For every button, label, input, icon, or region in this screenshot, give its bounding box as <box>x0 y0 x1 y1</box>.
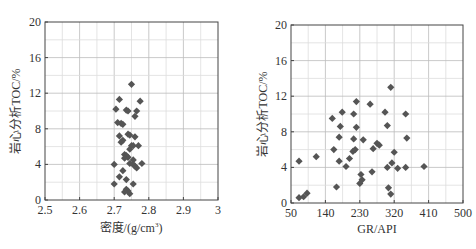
x-tick-label: 2.9 <box>176 203 191 217</box>
x-axis-label: GR/API <box>357 222 396 236</box>
data-point <box>403 134 410 141</box>
x-tick-label: 3 <box>215 203 221 217</box>
data-point <box>368 168 375 175</box>
data-point <box>336 134 343 141</box>
data-point <box>128 81 135 88</box>
data-point <box>295 158 302 165</box>
data-point <box>329 115 336 122</box>
y-tick-label: 16 <box>275 54 287 68</box>
data-point <box>357 171 364 178</box>
data-point <box>387 191 394 198</box>
x-tick-label: 320 <box>385 206 403 220</box>
data-point <box>333 183 340 190</box>
data-point <box>353 124 360 131</box>
x-tick-label: 410 <box>420 206 438 220</box>
data-point <box>394 165 401 172</box>
data-point <box>133 107 140 114</box>
y-tick-label: 12 <box>275 89 287 103</box>
data-point <box>384 164 391 171</box>
x-tick-label: 2.6 <box>72 203 87 217</box>
y-tick-label: 12 <box>29 86 41 100</box>
density-toc-chart: 2.52.62.72.82.93 048121620 密度/(g/cm3) 岩心… <box>0 0 238 249</box>
grid <box>291 25 463 203</box>
density-toc-plot: 2.52.62.72.82.93 048121620 密度/(g/cm3) 岩心… <box>0 0 238 249</box>
y-tick-label: 20 <box>275 18 287 32</box>
y-tick-label: 8 <box>35 122 41 136</box>
gr-toc-chart: 50140230320410500 048121620 GR/API 岩心分析T… <box>238 0 476 249</box>
y-axis-label: 岩心分析TOC/% <box>8 68 23 153</box>
data-point <box>342 163 349 170</box>
data-point <box>111 161 118 168</box>
data-point <box>116 173 123 180</box>
y-tick-label: 4 <box>281 160 287 174</box>
x-tick-label: 140 <box>316 206 334 220</box>
x-tick-label: 230 <box>351 206 369 220</box>
data-point <box>131 113 138 120</box>
data-point <box>381 109 388 116</box>
y-tick-label: 4 <box>35 157 41 171</box>
data-point <box>420 163 427 170</box>
data-point <box>135 142 142 149</box>
x-tick-label: 500 <box>454 206 472 220</box>
data-point <box>138 160 145 167</box>
data-point <box>360 136 367 143</box>
x-tick-label: 2.8 <box>141 203 156 217</box>
y-tick-label: 16 <box>29 51 41 65</box>
data-point <box>384 122 391 129</box>
data-point <box>137 98 144 105</box>
y-tick-label: 8 <box>281 125 287 139</box>
y-tick-label: 0 <box>35 193 41 207</box>
data-point <box>367 101 374 108</box>
data-point <box>350 135 357 142</box>
data-point <box>353 98 360 105</box>
data-point <box>350 110 357 117</box>
data-points <box>295 84 427 202</box>
y-tick-label: 20 <box>29 15 41 29</box>
data-point <box>111 180 118 187</box>
data-point <box>116 96 123 103</box>
data-point <box>330 146 337 153</box>
y-tick-label: 0 <box>281 196 287 210</box>
data-point <box>112 106 119 113</box>
data-points <box>111 81 146 198</box>
y-axis-label: 岩心分析TOC/% <box>255 71 270 156</box>
data-point <box>402 110 409 117</box>
data-point <box>346 155 353 162</box>
x-axis-label: 密度/(g/cm3) <box>100 220 163 235</box>
data-point <box>339 109 346 116</box>
data-point <box>370 145 377 152</box>
data-point <box>130 180 137 187</box>
data-point <box>387 84 394 91</box>
x-tick-label: 2.7 <box>107 203 122 217</box>
data-point <box>119 167 126 174</box>
gr-toc-plot: 50140230320410500 048121620 GR/API 岩心分析T… <box>238 0 476 249</box>
data-point <box>313 153 320 160</box>
data-point <box>336 158 343 165</box>
data-point <box>402 164 409 171</box>
